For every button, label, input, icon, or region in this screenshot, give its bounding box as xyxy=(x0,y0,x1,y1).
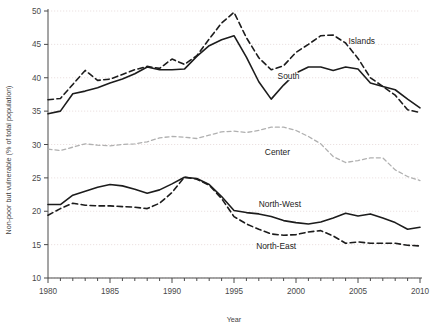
y-tick-label: 40 xyxy=(32,74,42,83)
series-label-south: South xyxy=(278,71,300,81)
x-axis-title: Year xyxy=(227,315,242,324)
gridlines-group xyxy=(48,11,420,278)
y-tick-label: 15 xyxy=(32,241,42,250)
y-tick-label: 50 xyxy=(32,7,42,16)
y-axis-title: Non-poor but vulnerable (% of total popu… xyxy=(4,85,13,234)
series-line-north-west xyxy=(48,177,420,229)
y-axis-ticks: 101520253035404550 xyxy=(32,7,48,283)
series-line-center xyxy=(48,127,420,180)
line-chart-canvas: 1980198519901995200020052010 10152025303… xyxy=(0,0,434,328)
x-tick-label: 1980 xyxy=(39,287,58,296)
x-axis-ticks: 1980198519901995200020052010 xyxy=(39,278,430,296)
y-tick-label: 45 xyxy=(32,40,42,49)
y-tick-label: 20 xyxy=(32,207,42,216)
x-tick-label: 1995 xyxy=(225,287,244,296)
x-tick-label: 2010 xyxy=(411,287,430,296)
x-tick-label: 2005 xyxy=(349,287,368,296)
plot-frame xyxy=(48,9,422,278)
series-label-north-west: North-West xyxy=(259,199,302,209)
chart-figure: 1980198519901995200020052010 10152025303… xyxy=(0,0,434,328)
y-tick-label: 35 xyxy=(32,107,42,116)
series-line-south xyxy=(48,36,420,114)
y-tick-label: 30 xyxy=(32,141,42,150)
series-label-center: Center xyxy=(265,147,290,157)
series-label-islands: Islands xyxy=(348,36,375,46)
x-tick-label: 2000 xyxy=(287,287,306,296)
x-tick-label: 1985 xyxy=(101,287,120,296)
series-labels-group: IslandsIslandsSouthSouthCenterCenterNort… xyxy=(256,36,375,251)
series-line-islands xyxy=(48,12,420,112)
y-tick-label: 25 xyxy=(32,174,42,183)
x-tick-label: 1990 xyxy=(163,287,182,296)
y-tick-label: 10 xyxy=(32,274,42,283)
series-label-north-east: North-East xyxy=(256,241,297,251)
